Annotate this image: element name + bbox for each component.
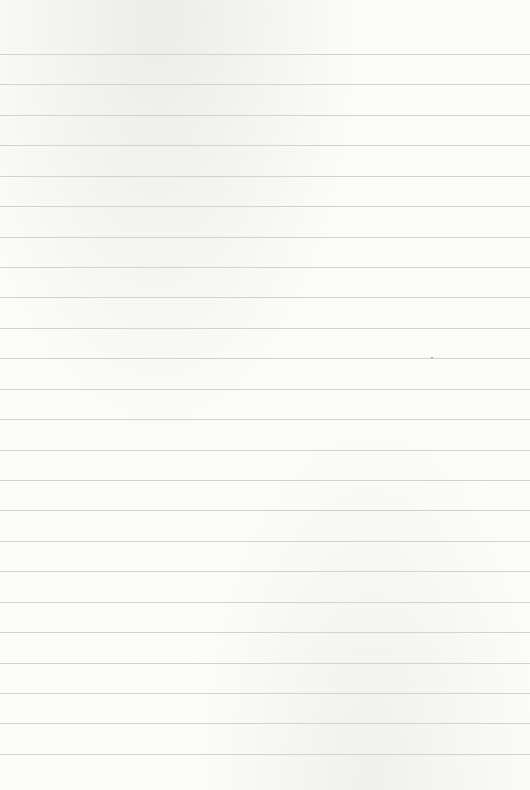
ruled-line bbox=[0, 237, 530, 238]
ruled-line bbox=[0, 541, 530, 542]
ruled-line bbox=[0, 267, 530, 268]
ruled-line bbox=[0, 389, 530, 390]
ruled-line bbox=[0, 480, 530, 481]
ruled-line bbox=[0, 663, 530, 664]
ruled-line bbox=[0, 115, 530, 116]
ruled-line bbox=[0, 450, 530, 451]
ruled-line bbox=[0, 358, 530, 359]
ruled-line bbox=[0, 206, 530, 207]
ruled-line bbox=[0, 693, 530, 694]
ruled-line bbox=[0, 176, 530, 177]
ruled-line bbox=[0, 328, 530, 329]
ruled-line bbox=[0, 571, 530, 572]
ruled-line bbox=[0, 754, 530, 755]
ruled-line bbox=[0, 510, 530, 511]
ruled-line bbox=[0, 419, 530, 420]
ruled-line bbox=[0, 54, 530, 55]
ruled-line bbox=[0, 145, 530, 146]
ruled-line bbox=[0, 723, 530, 724]
ruled-line bbox=[0, 602, 530, 603]
ruled-line bbox=[0, 297, 530, 298]
ruled-line bbox=[0, 84, 530, 85]
lined-paper-sheet bbox=[0, 0, 530, 790]
ruled-line bbox=[0, 632, 530, 633]
